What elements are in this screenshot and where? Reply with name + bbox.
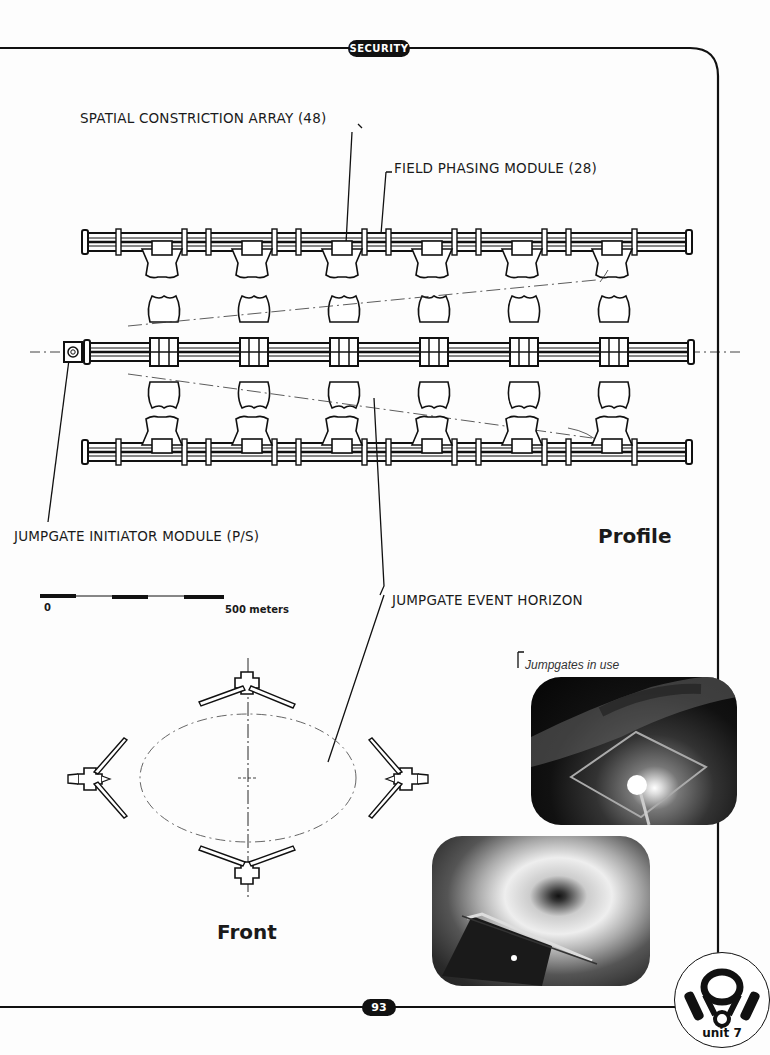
scale-end: 500 meters [225, 604, 289, 615]
unit-badge: unit 7 [674, 952, 770, 1048]
unit-badge-label: unit 7 [675, 1026, 769, 1040]
profile-diagram [0, 200, 770, 500]
photo-caption: Jumpgates in use [525, 658, 619, 672]
jumpgate-photo-2 [432, 836, 650, 986]
scale-start: 0 [44, 602, 51, 613]
photo-1-detail [531, 677, 737, 825]
scale-bar [40, 593, 230, 603]
photo-2-detail [432, 836, 650, 986]
front-diagram [40, 650, 440, 920]
page-number: 93 [362, 999, 396, 1016]
jumpgate-photo-1 [531, 677, 737, 825]
